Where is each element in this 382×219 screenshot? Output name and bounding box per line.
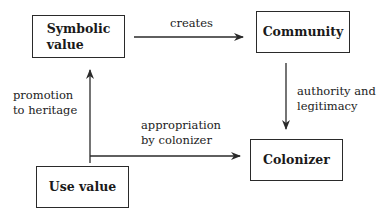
- node-symbolic-value-line1: Symbolic: [47, 21, 111, 37]
- edge-label-authority-line2: legitimacy: [297, 99, 376, 114]
- node-community-label: Community: [263, 24, 344, 40]
- edge-label-appropriation: appropriation by colonizer: [141, 118, 221, 148]
- edge-label-promotion: promotion to heritage: [13, 88, 77, 118]
- edge-label-promotion-line1: promotion: [13, 88, 77, 103]
- node-symbolic-value: Symbolic value: [32, 15, 125, 58]
- node-symbolic-value-line2: value: [47, 37, 111, 53]
- edge-label-authority: authority and legitimacy: [297, 84, 376, 114]
- node-use-value-label: Use value: [49, 179, 116, 195]
- node-community: Community: [256, 11, 350, 53]
- edge-label-appropriation-line1: appropriation: [141, 118, 221, 133]
- node-colonizer-label: Colonizer: [263, 152, 330, 168]
- node-use-value: Use value: [36, 166, 129, 208]
- edge-label-authority-line1: authority and: [297, 84, 376, 99]
- edge-label-appropriation-line2: by colonizer: [141, 133, 221, 148]
- edge-label-promotion-line2: to heritage: [13, 103, 77, 118]
- edge-label-creates: creates: [170, 16, 213, 31]
- node-colonizer: Colonizer: [250, 139, 343, 181]
